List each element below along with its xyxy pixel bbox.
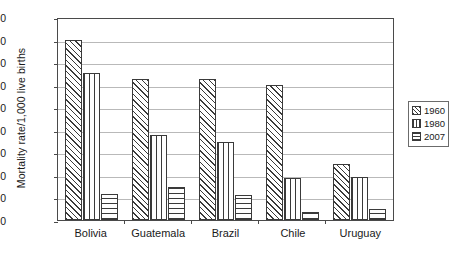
bar [83,73,100,220]
x-axis-tick [124,220,125,224]
bar [217,142,234,220]
y-axis-tick-label: 60 [0,147,6,159]
y-axis-tick-label: 0 [0,215,6,227]
legend-swatch-icon [412,106,421,115]
bar [168,187,185,220]
legend-item: 1980 [412,117,445,130]
y-axis-tick-label: 20 [0,192,6,204]
x-axis-tick [258,220,259,224]
x-axis-category-label: Bolivia [57,227,124,239]
x-axis-category-label: Uruguay [327,227,394,239]
bar [199,79,216,220]
legend-item: 1960 [412,104,445,117]
y-axis-tick-label: 160 [0,35,6,47]
bar [302,212,319,220]
bar-group [326,19,393,220]
y-axis-tick-label: 180 [0,12,6,24]
legend-item-label: 1980 [424,118,445,129]
bar [65,40,82,220]
legend-item-label: 1960 [424,105,445,116]
bar-groups [58,19,393,220]
bar [150,135,167,220]
bar-group [125,19,192,220]
y-axis-tick-label: 100 [0,102,6,114]
legend-item: 2007 [412,130,445,143]
bar-group [192,19,259,220]
bar-chart: Mortality rate/1,000 live births 0204060… [0,0,468,257]
bar [351,177,368,220]
y-axis-title: Mortality rate/1,000 live births [15,13,27,223]
x-axis-category-label: Brazil [192,227,259,239]
legend-swatch-icon [412,132,421,141]
x-axis-category-label: Chile [259,227,326,239]
bar [132,79,149,220]
bar [101,194,118,220]
plot-area [57,18,394,221]
y-axis-tick-label: 140 [0,57,6,69]
bar [235,195,252,220]
y-axis-tick-label: 120 [0,80,6,92]
bar-group [259,19,326,220]
bar [284,178,301,220]
x-axis-category-label: Guatemala [124,227,191,239]
legend-swatch-icon [412,119,421,128]
y-axis-tick-label: 80 [0,125,6,137]
bar [333,164,350,220]
x-axis-tick [325,220,326,224]
y-axis-tick [54,222,58,223]
bar [369,209,386,220]
bar [266,85,283,220]
legend: 196019802007 [408,101,449,147]
y-axis-tick-label: 40 [0,170,6,182]
x-axis-tick [191,220,192,224]
x-axis-category-labels: BoliviaGuatemalaBrazilChileUruguay [57,227,394,239]
bar-group [58,19,125,220]
legend-item-label: 2007 [424,131,445,142]
